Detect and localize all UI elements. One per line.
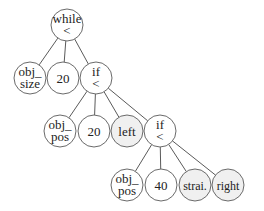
node-label: pos	[118, 183, 136, 198]
tree-node: right	[212, 169, 244, 201]
node-label: left	[118, 124, 136, 139]
tree-edges	[39, 38, 215, 175]
tree-node: 20	[47, 62, 79, 94]
node-label: 20	[57, 71, 70, 86]
tree-edge	[39, 38, 58, 65]
tree-node: obj_pos	[111, 169, 143, 201]
tree-node: if<	[80, 62, 112, 94]
tree-edge	[169, 144, 187, 171]
node-label: <	[156, 129, 163, 144]
tree-node: while<	[51, 9, 83, 41]
syntax-tree-diagram: while<obj_size20if<obj_pos20leftif<obj_p…	[0, 0, 264, 211]
tree-node: obj_pos	[44, 115, 76, 147]
tree-edge	[95, 94, 96, 115]
node-label: <	[92, 76, 99, 91]
tree-edge	[135, 145, 151, 172]
tree-node: strai.	[179, 169, 211, 201]
tree-edge	[75, 39, 89, 64]
node-label: right	[217, 179, 240, 193]
node-label: strai.	[183, 179, 207, 193]
node-label: 40	[155, 178, 168, 193]
node-label: size	[20, 76, 40, 91]
tree-edge	[64, 41, 66, 62]
tree-node: left	[111, 115, 143, 147]
tree-edge	[69, 91, 87, 118]
tree-node: 40	[145, 169, 177, 201]
tree-node: 20	[78, 115, 110, 147]
node-label: <	[63, 23, 70, 38]
node-label: pos	[51, 129, 69, 144]
tree-node: if<	[144, 115, 176, 147]
tree-node: obj_size	[14, 62, 46, 94]
node-label: 20	[88, 124, 101, 139]
